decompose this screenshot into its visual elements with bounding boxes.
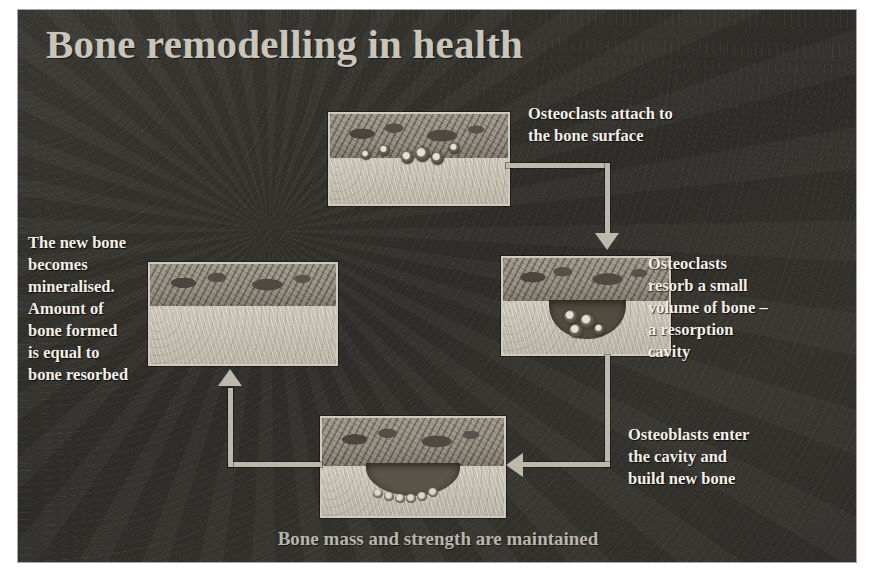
soft-tissue-layer (503, 258, 669, 304)
arrow-segment-vertical (605, 355, 610, 467)
annotation-line: Amount of (28, 298, 188, 320)
micrograph-panel-osteoclasts-attach (328, 112, 510, 206)
annotation-line: Osteoclasts (648, 253, 873, 275)
annotation-osteoblasts-build: Osteoblasts enter the cavity and build n… (628, 424, 858, 490)
page-title: Bone remodelling in health (46, 20, 523, 68)
annotation-line: volume of bone – (648, 297, 873, 319)
annotation-line: the cavity and (628, 446, 858, 468)
annotation-resorption-cavity: Osteoclasts resorb a small volume of bon… (648, 253, 873, 363)
arrowhead-left-icon (506, 453, 523, 477)
micrograph-panel-resorption-cavity (501, 256, 671, 356)
arrowhead-down-icon (595, 233, 619, 250)
slide-content: Bone remodelling in health Osteoclasts a… (0, 0, 876, 588)
annotation-line: becomes (28, 254, 188, 276)
soft-tissue-layer (322, 418, 504, 469)
annotation-line: a resorption (648, 319, 873, 341)
annotation-line: the bone surface (528, 125, 743, 147)
annotation-mineralised-bone: The new bone becomes mineralised. Amount… (28, 232, 188, 386)
annotation-line: bone resorbed (28, 364, 188, 386)
osteoblast-cell (428, 488, 438, 497)
annotation-line: resorb a small (648, 275, 873, 297)
arrow-segment-horizontal (522, 462, 610, 467)
annotation-line: The new bone (28, 232, 188, 254)
footer-caption: Bone mass and strength are maintained (0, 528, 876, 550)
annotation-line: is equal to (28, 342, 188, 364)
bone-matrix-layer (330, 158, 508, 204)
micrograph-panel-osteoblasts-build (320, 416, 506, 518)
arrow-segment-horizontal (228, 462, 322, 467)
osteoblast-cell (406, 494, 416, 503)
annotation-line: build new bone (628, 468, 858, 490)
osteoblast-cell (395, 494, 405, 503)
arrow-segment-vertical (228, 388, 233, 467)
micrograph-image-2 (503, 258, 669, 354)
arrowhead-up-icon (218, 369, 242, 386)
annotation-line: bone formed (28, 320, 188, 342)
annotation-line: cavity (648, 341, 873, 363)
annotation-line: Osteoclasts attach to (528, 103, 743, 125)
annotation-line: mineralised. (28, 276, 188, 298)
osteoblast-cell (384, 492, 394, 501)
osteoblast-cell (373, 489, 383, 498)
annotation-line: Osteoblasts enter (628, 424, 858, 446)
micrograph-image-1 (330, 114, 508, 204)
arrow-segment-horizontal (506, 163, 610, 168)
slide-canvas: Bone remodelling in health Osteoclasts a… (0, 0, 876, 588)
osteoblast-cell (417, 492, 427, 501)
micrograph-image-3 (322, 418, 504, 516)
annotation-osteoclasts-attach: Osteoclasts attach to the bone surface (528, 103, 743, 147)
arrow-segment-vertical (605, 163, 610, 235)
